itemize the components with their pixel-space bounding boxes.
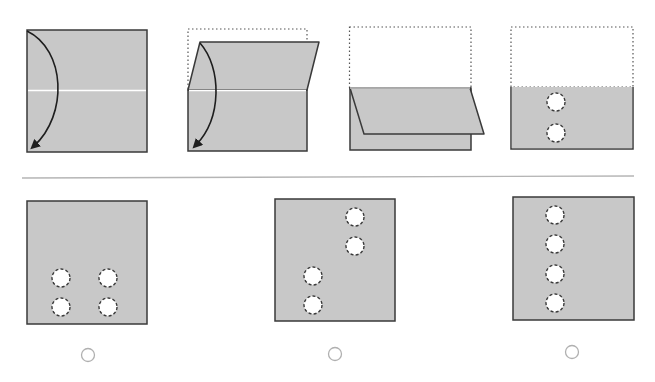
option-c-radio[interactable] [566,346,579,359]
step-3-folded [350,27,485,150]
option-a-radio[interactable] [82,349,95,362]
folded-flap [350,88,484,134]
hole-icon [546,235,564,253]
hole-icon [304,267,322,285]
option-c [513,197,634,359]
hole-icon [52,298,70,316]
hole-icon [547,93,565,111]
separator [22,176,634,178]
hole-icon [346,208,364,226]
original-position-outline [350,27,472,88]
hole-icon [346,237,364,255]
folding-flap [188,42,319,90]
option-a [27,201,147,362]
step-2-folding [188,29,319,151]
hole-icon [547,124,565,142]
step-1-unfolded-square [27,30,147,152]
hole-icon [546,206,564,224]
hole-icon [99,269,117,287]
hole-icon [52,269,70,287]
hole-icon [304,296,322,314]
hole-icon [546,294,564,312]
original-position-outline [511,27,633,87]
option-b [275,199,395,361]
step-4-punched [511,27,633,149]
hole-icon [546,265,564,283]
hole-icon [99,298,117,316]
paper-folding-puzzle [0,0,655,382]
option-b-radio[interactable] [329,348,342,361]
